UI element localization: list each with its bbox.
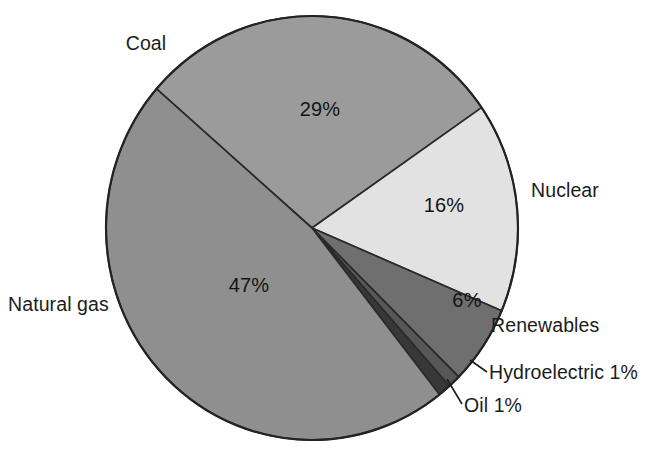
leader-line-hydroelectric [470,360,487,372]
category-label-natural-gas: Natural gas [8,293,109,315]
slice-value-natural-gas: 47% [229,274,270,296]
category-label-coal: Coal [126,32,167,54]
pie-chart-canvas: 29% 16% 6% 47% Coal Nuclear Renewables H… [0,0,651,453]
slice-value-nuclear: 16% [424,194,465,216]
slice-value-coal: 29% [300,98,341,120]
slice-value-renewables: 6% [452,289,481,311]
category-label-oil: Oil 1% [464,394,522,416]
leader-line-oil [447,379,462,404]
category-label-hydroelectric: Hydroelectric 1% [489,361,638,383]
pie-slices-group [106,16,518,440]
category-label-nuclear: Nuclear [531,179,599,201]
category-label-renewables: Renewables [491,314,599,336]
pie-chart-figure: 29% 16% 6% 47% Coal Nuclear Renewables H… [0,0,651,453]
